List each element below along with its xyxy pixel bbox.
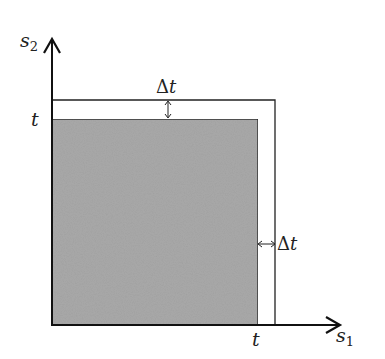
right-delta-arrow-icon — [258, 241, 275, 247]
x-tick-label: t — [252, 328, 260, 350]
shaded-region — [52, 119, 258, 325]
top-delta-label: Δt — [156, 76, 177, 97]
y-tick-label: t — [31, 108, 39, 130]
diagram-canvas: s2 s1 t t Δt Δt — [0, 0, 385, 359]
y-axis-label: s2 — [20, 29, 38, 54]
top-delta-arrow-icon — [165, 101, 171, 118]
x-axis-label: s1 — [336, 324, 354, 349]
right-delta-label: Δt — [277, 233, 298, 254]
